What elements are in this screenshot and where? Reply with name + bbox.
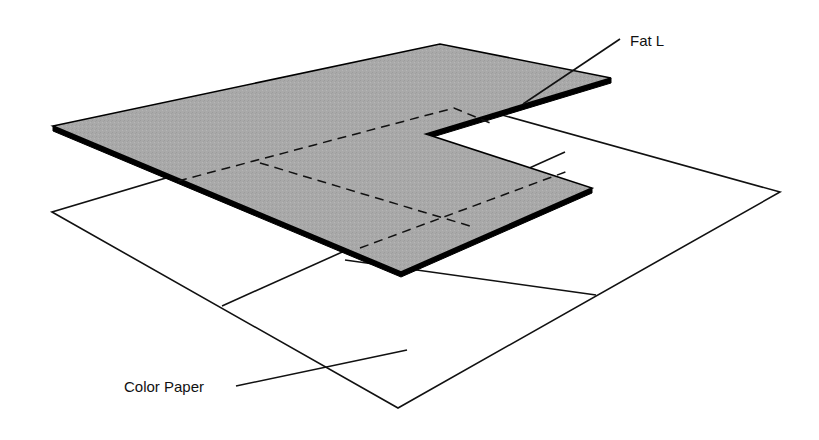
- diagram-canvas: Fat L Color Paper: [0, 0, 819, 440]
- color-paper-label: Color Paper: [124, 378, 204, 395]
- fat-l-label: Fat L: [630, 32, 664, 49]
- diagram-svg: Fat L Color Paper: [0, 0, 819, 440]
